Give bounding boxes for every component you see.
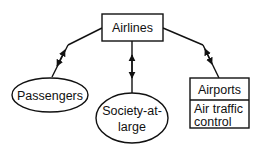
node-airlines: Airlines: [102, 14, 163, 41]
node-atc-label-line2: control: [194, 115, 232, 129]
node-society-label-line1: Society-at-: [102, 104, 162, 118]
node-atc-label-line1: Air traffic: [194, 102, 243, 116]
node-airports: Airports Air traffic control: [190, 78, 249, 129]
bidirectional-arrow-icon: [205, 49, 212, 64]
node-airlines-label: Airlines: [112, 21, 153, 35]
edge-airlines-passengers: [52, 28, 102, 77]
stakeholder-diagram: Airlines Passengers Society-at- large Ai…: [0, 0, 263, 148]
node-airports-label: Airports: [198, 83, 241, 97]
bidirectional-arrow-icon: [57, 50, 65, 66]
node-society-label-line2: large: [118, 120, 146, 134]
node-passengers-label: Passengers: [17, 89, 83, 103]
edge-airlines-airports: [163, 28, 219, 78]
node-society-at-large: Society-at- large: [96, 93, 168, 143]
node-passengers: Passengers: [12, 78, 88, 112]
